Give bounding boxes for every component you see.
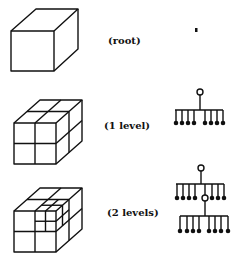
tree-root <box>195 28 198 32</box>
cube-root <box>11 9 78 71</box>
cube-1-level <box>14 100 82 164</box>
tree-2-levels <box>175 165 229 233</box>
tree-1-level <box>174 89 224 125</box>
cube-2-levels <box>14 188 82 252</box>
label-root: (root) <box>108 35 141 46</box>
label-1-level: (1 level) <box>104 120 150 131</box>
label-2-levels: (2 levels) <box>107 207 159 218</box>
